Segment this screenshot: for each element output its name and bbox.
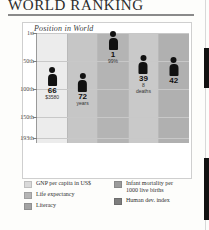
data-point-gnp[interactable]: 66 $3580 xyxy=(45,67,59,101)
person-body-icon xyxy=(78,80,87,92)
page-edge-mark-bottom xyxy=(204,158,209,220)
person-body-icon xyxy=(169,64,178,76)
legend-label: Life expectancy xyxy=(36,191,74,198)
legend-swatch-icon xyxy=(114,198,122,205)
legend-swatch-icon xyxy=(24,192,32,199)
gridline-193th xyxy=(37,138,189,139)
page-edge-mark-top xyxy=(204,48,209,88)
legend-label: GNP per capita in US$ xyxy=(36,180,91,187)
legend-item-infant-mortality[interactable]: Infant mortality per 1000 live births xyxy=(114,180,202,193)
legend-swatch-icon xyxy=(114,181,122,188)
data-point-literacy[interactable]: 1 99% xyxy=(108,31,118,65)
y-tick-mark xyxy=(33,117,37,118)
data-point-human-dev-index[interactable]: 42 xyxy=(169,57,178,85)
data-point-detail: 99% xyxy=(108,59,118,65)
chart-legend: GNP per capita in US$ Life expectancy Li… xyxy=(22,180,198,220)
person-head-icon xyxy=(49,67,55,73)
plot-area: 66 $3580 72 years 1 99% 39 8 xyxy=(36,33,189,143)
person-icon xyxy=(108,31,117,50)
person-head-icon xyxy=(140,55,146,61)
person-body-icon xyxy=(139,62,148,74)
person-icon xyxy=(139,55,148,74)
data-point-life-expectancy[interactable]: 72 years xyxy=(76,73,88,107)
legend-label: Literacy xyxy=(36,202,56,209)
gridline-150th xyxy=(37,117,189,118)
gridline-100th xyxy=(37,89,189,90)
person-body-icon xyxy=(108,38,117,50)
y-tick-label-150th: 150th xyxy=(20,114,34,120)
y-tick-mark xyxy=(33,138,37,139)
page-root: WORLD RANKING Position in World 1st 50th… xyxy=(0,0,209,230)
legend-label-wrap: Infant mortality per 1000 live births xyxy=(126,180,173,193)
y-tick-mark xyxy=(33,61,37,62)
chart-subtitle: Position in World xyxy=(34,24,94,33)
legend-item-gnp[interactable]: GNP per capita in US$ xyxy=(24,180,112,188)
legend-item-life-expectancy[interactable]: Life expectancy xyxy=(24,191,112,199)
legend-label: Infant mortality per xyxy=(126,180,173,186)
data-point-rank: 42 xyxy=(169,77,178,85)
page-title-container: WORLD RANKING xyxy=(8,0,194,12)
y-tick-label-193th: 193th xyxy=(20,135,34,141)
person-icon xyxy=(48,67,57,86)
legend-column-left: GNP per capita in US$ Life expectancy Li… xyxy=(24,180,112,213)
legend-label-line2: 1000 live births xyxy=(126,187,164,193)
person-icon xyxy=(78,73,87,92)
person-head-icon xyxy=(80,73,86,79)
data-point-infant-mortality[interactable]: 39 8 deaths xyxy=(136,55,151,94)
person-head-icon xyxy=(110,31,116,37)
page-title: WORLD RANKING xyxy=(8,0,194,12)
title-divider xyxy=(8,14,194,16)
data-point-detail: $3580 xyxy=(45,95,59,101)
y-axis-labels: 1st 50th 100th 150th 193th xyxy=(12,33,34,145)
person-head-icon xyxy=(171,57,177,63)
legend-swatch-icon xyxy=(24,181,32,188)
y-tick-mark xyxy=(33,33,37,34)
person-body-icon xyxy=(48,74,57,86)
legend-swatch-icon xyxy=(24,203,32,210)
data-point-detail-line2: deaths xyxy=(136,89,151,95)
data-point-detail: years xyxy=(76,101,88,107)
y-tick-label-100th: 100th xyxy=(20,86,34,92)
legend-item-human-dev-index[interactable]: Human dev. index xyxy=(114,197,202,205)
y-tick-mark xyxy=(33,89,37,90)
plot-column-human-dev-index xyxy=(159,33,189,143)
legend-label: Human dev. index xyxy=(126,197,170,204)
person-icon xyxy=(169,57,178,76)
legend-item-literacy[interactable]: Literacy xyxy=(24,202,112,210)
legend-column-right: Infant mortality per 1000 live births Hu… xyxy=(114,180,202,208)
